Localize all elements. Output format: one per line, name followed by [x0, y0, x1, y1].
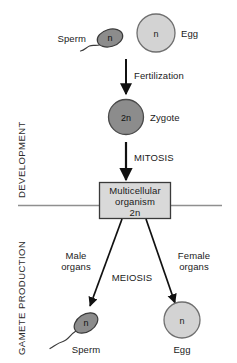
organism-line-3: 2n — [99, 207, 171, 218]
label-sperm-top: Sperm — [32, 33, 86, 44]
egg-cell-top: n — [137, 14, 175, 52]
diagram-graphics: n n 2n n n — [0, 0, 237, 363]
label-sperm-bottom: Sperm — [60, 344, 112, 355]
label-meiosis: MEIOSIS — [102, 272, 162, 283]
label-male-organs-line2: organs — [52, 261, 100, 272]
sperm-head-bottom — [70, 309, 101, 338]
label-fertilization: Fertilization — [134, 70, 184, 81]
label-zygote: Zygote — [150, 112, 180, 123]
sperm-cell-top: n — [81, 26, 125, 51]
egg-ploidy-top: n — [153, 29, 158, 39]
egg-circle-bottom — [164, 302, 200, 338]
sperm-ploidy-bottom: n — [83, 318, 88, 328]
zygote-cell: 2n — [109, 100, 144, 135]
organism-line-2: organism — [99, 196, 171, 207]
label-mitosis: MITOSIS — [134, 152, 174, 163]
label-female-organs-line1: Female — [168, 250, 220, 261]
label-male-organs-line1: Male — [52, 250, 100, 261]
sperm-ploidy-top: n — [107, 33, 112, 43]
egg-circle-top — [137, 14, 175, 52]
zygote-ploidy: 2n — [121, 113, 131, 123]
section-label-gamete-production: GAMETE PRODUCTION — [16, 241, 27, 355]
sperm-cell-bottom: n — [50, 309, 102, 349]
egg-ploidy-bottom: n — [179, 316, 184, 326]
section-label-development: DEVELOPMENT — [16, 121, 27, 198]
label-egg-bottom: Egg — [160, 344, 204, 355]
organism-line-1: Multicellular — [99, 185, 171, 196]
label-egg-top: Egg — [181, 28, 198, 39]
egg-cell-bottom: n — [164, 302, 200, 338]
life-cycle-diagram: n n 2n n n — [0, 0, 237, 363]
label-female-organs-line2: organs — [168, 261, 220, 272]
sperm-tail-top — [81, 45, 101, 52]
zygote-circle — [109, 100, 144, 135]
sperm-head-top — [95, 26, 125, 50]
